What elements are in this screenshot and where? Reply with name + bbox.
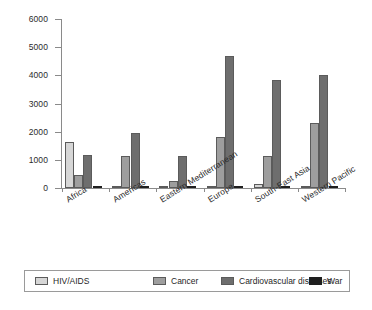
legend-swatch-icon [309,277,322,285]
bar [65,142,74,188]
bar [207,186,216,188]
bar-chart: 0100020003000400050006000 AfricaAmericas… [0,0,372,310]
legend-item: War [309,275,342,287]
y-tick-label: 5000 [0,43,48,51]
bar-group [156,19,203,188]
x-tick-mark [204,188,205,192]
bar [263,156,272,188]
legend-swatch-icon [221,277,234,285]
chart-legend: HIV/AIDSCancerCardiovascular diseasesWar [24,270,350,292]
y-tick-label: 4000 [0,71,48,79]
bar [254,184,263,188]
x-tick-mark [298,188,299,192]
x-tick-mark [109,188,110,192]
bar [301,186,310,188]
bar [112,186,121,188]
x-tick-mark [62,188,63,192]
y-tick-mark [55,132,62,133]
bar [225,56,234,188]
y-tick-label: 3000 [0,100,48,108]
y-tick-mark [55,19,62,20]
legend-label: War [327,275,342,287]
bar [272,80,281,188]
bar [93,186,102,188]
y-tick-mark [55,104,62,105]
x-tick-mark [345,188,346,192]
y-tick-mark [55,47,62,48]
bar [83,155,92,188]
legend-swatch-icon [153,277,166,285]
y-tick-label: 1000 [0,156,48,164]
bar [234,186,243,188]
y-tick-label: 6000 [0,15,48,23]
bar [310,123,319,188]
bar [319,75,328,188]
legend-swatch-icon [35,277,48,285]
bar-group [62,19,109,188]
legend-label: Cancer [171,275,198,287]
y-tick-label: 2000 [0,128,48,136]
legend-label: HIV/AIDS [53,275,89,287]
bar-group [251,19,298,188]
y-tick-mark [55,160,62,161]
bar-group [109,19,156,188]
x-tick-mark [156,188,157,192]
plot-area: 0100020003000400050006000 [0,0,372,200]
y-tick-mark [55,188,62,189]
legend-item: Cancer [153,275,198,287]
y-tick-label: 0 [0,184,48,192]
legend-item: HIV/AIDS [35,275,89,287]
x-tick-mark [251,188,252,192]
y-tick-mark [55,75,62,76]
bar [159,186,168,188]
